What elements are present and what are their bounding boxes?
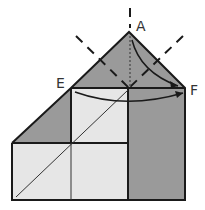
diagram-canvas	[0, 0, 205, 210]
bottom-left-square	[12, 143, 71, 200]
right-panel	[128, 88, 185, 200]
origami-fold-diagram: A E F	[0, 0, 205, 210]
bottom-mid-square	[71, 143, 128, 200]
label-e: E	[56, 76, 65, 90]
inner-square-top	[71, 88, 128, 143]
label-a: A	[136, 19, 146, 33]
label-f: F	[190, 83, 198, 97]
top-triangle	[71, 32, 185, 88]
